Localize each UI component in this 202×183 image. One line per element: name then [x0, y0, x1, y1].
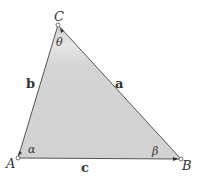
triangle-fill [18, 25, 181, 159]
angle-label-alpha: α [28, 143, 36, 156]
angle-label-theta: θ [56, 36, 63, 49]
vertex-a-marker [16, 156, 20, 160]
angle-label-beta: β [151, 145, 158, 158]
vertex-label-b: B [181, 158, 192, 173]
side-label-c: c [81, 160, 89, 175]
vertex-label-c: C [54, 9, 64, 24]
triangle-diagram: C A B b a c α β θ [0, 0, 202, 183]
vertex-label-a: A [5, 156, 15, 171]
side-label-b: b [26, 76, 35, 91]
side-label-a: a [115, 76, 124, 91]
